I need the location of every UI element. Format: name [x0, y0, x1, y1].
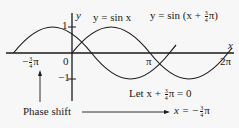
phase-shift-label: Phase shift: [23, 106, 71, 117]
result-prefix: x = −: [174, 104, 199, 116]
fraction-numerator: 3: [29, 56, 32, 63]
y-axis-label: y: [76, 10, 81, 21]
x-axis-label: x: [228, 40, 233, 51]
shifted-prefix: y = sin (x +: [150, 9, 204, 21]
x-tick-label-2pi: 2π: [220, 56, 231, 67]
x-tick-label-pi: π: [146, 56, 152, 67]
minus-sign: −: [22, 55, 28, 67]
result-equation: x = −34π: [174, 105, 210, 118]
x-tick-label-neg-three-quarter-pi: −34π: [22, 56, 39, 69]
pi-symbol: π: [33, 55, 39, 67]
fraction-numerator: 3: [165, 88, 168, 95]
let-suffix: π = 0: [169, 87, 192, 99]
result-arrow-head: [164, 110, 170, 114]
fraction-denominator: 4: [165, 95, 168, 101]
fraction-three-quarters: 34: [200, 105, 203, 118]
fraction-numerator: 3: [200, 105, 203, 112]
fraction-three-quarters: 34: [165, 88, 168, 101]
fraction-denominator: 4: [205, 17, 208, 23]
label-sin-shifted: y = sin (x + 34π): [150, 10, 218, 23]
phase-shift-arrow-head: [38, 70, 42, 76]
fraction-three-quarters: 34: [29, 56, 32, 69]
result-suffix: π: [204, 104, 210, 116]
fraction-numerator: 3: [205, 10, 208, 17]
y-tick-label-1: 1: [62, 20, 68, 31]
origin-label: 0: [63, 56, 69, 67]
label-sin-x: y = sin x: [93, 12, 131, 23]
y-tick-label-neg1: −1: [58, 72, 70, 83]
let-prefix: Let x +: [129, 87, 164, 99]
fraction-denominator: 4: [29, 63, 32, 69]
let-equation: Let x + 34π = 0: [129, 88, 191, 101]
fraction-denominator: 4: [200, 112, 203, 118]
fraction-three-quarters: 34: [205, 10, 208, 23]
shifted-suffix: π): [209, 9, 218, 21]
